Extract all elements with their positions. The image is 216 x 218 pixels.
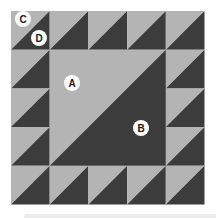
border-half-square-triangle (11, 88, 50, 127)
border-half-square-triangle (166, 166, 205, 205)
label-text: D (35, 33, 42, 44)
center-half-square-triangle (50, 50, 166, 166)
border-half-square-triangle (50, 166, 89, 205)
label-d: D (31, 30, 47, 46)
label-text: C (19, 14, 26, 25)
border-half-square-triangle (166, 127, 205, 166)
label-text: A (68, 78, 75, 89)
label-b: B (133, 120, 149, 136)
border-half-square-triangle (50, 11, 89, 50)
border-half-square-triangle (88, 11, 127, 50)
border-half-square-triangle (166, 50, 205, 89)
border-half-square-triangle (127, 11, 166, 50)
border-half-square-triangle (88, 166, 127, 205)
label-a: A (64, 75, 80, 91)
bottom-band (24, 214, 216, 218)
border-half-square-triangle (11, 166, 50, 205)
border-half-square-triangle (166, 88, 205, 127)
border-half-square-triangle (11, 50, 50, 89)
quilt-block-diagram: ABCD (0, 0, 216, 218)
label-text: B (137, 123, 144, 134)
border-half-square-triangle (166, 11, 205, 50)
label-c: C (15, 11, 31, 27)
border-half-square-triangle (11, 127, 50, 166)
border-half-square-triangle (127, 166, 166, 205)
